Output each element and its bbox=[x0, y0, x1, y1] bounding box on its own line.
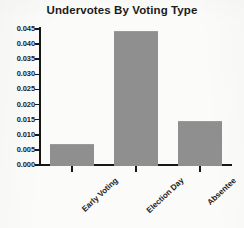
y-tick-mark bbox=[35, 164, 40, 166]
y-tick-label: 0.015 bbox=[1, 115, 35, 124]
y-tick-mark bbox=[35, 149, 40, 151]
y-tick-label: 0.000 bbox=[1, 160, 35, 169]
y-tick-mark bbox=[35, 74, 40, 76]
x-tick-mark bbox=[135, 166, 137, 172]
y-tick-label: 0.035 bbox=[1, 54, 35, 63]
y-tick-label: 0.020 bbox=[1, 100, 35, 109]
chart-title: Undervotes By Voting Type bbox=[0, 4, 244, 16]
bar-absentee bbox=[178, 121, 222, 166]
y-tick-label: 0.030 bbox=[1, 69, 35, 78]
y-tick-label: 0.045 bbox=[1, 24, 35, 33]
y-tick-mark bbox=[35, 58, 40, 60]
y-tick-mark bbox=[35, 89, 40, 91]
y-tick-mark bbox=[35, 28, 40, 30]
x-tick-mark bbox=[71, 166, 73, 172]
y-tick-label: 0.010 bbox=[1, 130, 35, 139]
y-axis-line bbox=[39, 27, 41, 166]
y-tick-mark bbox=[35, 134, 40, 136]
x-tick-mark bbox=[199, 166, 201, 172]
y-tick-mark bbox=[35, 119, 40, 121]
bar-early-voting bbox=[50, 144, 94, 166]
chart-figure: Undervotes By Voting Type 0.0000.0050.01… bbox=[0, 0, 244, 228]
y-tick-label: 0.005 bbox=[1, 145, 35, 154]
y-tick-mark bbox=[35, 43, 40, 45]
x-tick-label: Early Voting bbox=[80, 176, 119, 214]
x-tick-label: Election Day bbox=[145, 176, 186, 215]
y-tick-label: 0.040 bbox=[1, 39, 35, 48]
y-tick-mark bbox=[35, 104, 40, 106]
y-tick-label: 0.025 bbox=[1, 84, 35, 93]
x-tick-label: Absentee bbox=[206, 176, 238, 207]
bar-election-day bbox=[114, 31, 158, 166]
